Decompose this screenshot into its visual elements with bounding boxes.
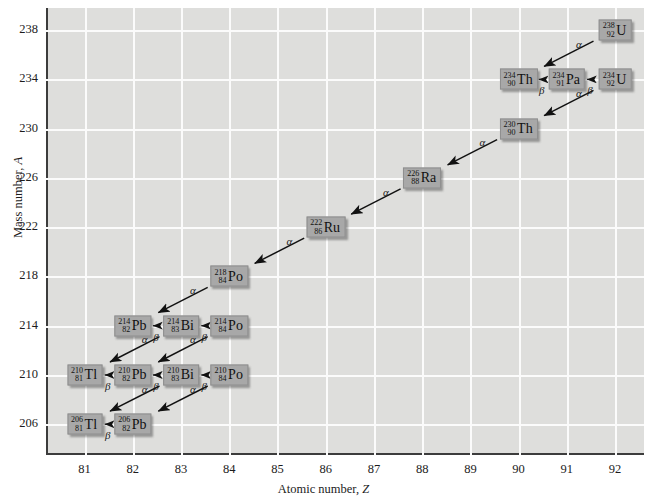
gridline-horizontal [46,276,644,278]
atomic-number: 86 [314,227,322,235]
element-symbol: Po [228,368,243,382]
element-symbol: Po [228,319,243,333]
y-tick-label: 210 [0,367,38,382]
element-symbol: U [616,72,626,86]
x-tick-label: 81 [65,462,105,477]
nuclide-box[interactable]: 20682Pb [114,414,151,435]
element-symbol: Pb [132,368,147,382]
y-axis-title-symbol: A [11,157,25,165]
atomic-number: 82 [122,375,130,383]
nuclide-numbers: 20682 [118,416,130,433]
element-symbol: Po [228,269,243,283]
nuclide-numbers: 21081 [71,367,83,384]
atomic-number: 84 [219,276,227,284]
beta-label: β [105,380,110,392]
element-symbol: Bi [181,368,194,382]
nuclide-box[interactable]: 22688Ra [403,167,441,188]
nuclide-box[interactable]: 22286Ru [306,217,345,238]
nuclide-box[interactable]: 21484Po [211,315,248,336]
nuclide-numbers: 23090 [504,120,516,137]
element-symbol: Bi [181,319,194,333]
y-tick-label: 238 [0,22,38,37]
x-axis-title: Atomic number, Z [0,482,647,497]
beta-label: β [201,380,206,392]
y-tick-label: 206 [0,416,38,431]
nuclide-numbers: 21482 [118,317,130,334]
beta-label: β [153,380,158,392]
y-tick-label: 214 [0,318,38,333]
x-tick-label: 89 [450,462,490,477]
nuclide-numbers: 23490 [504,71,516,88]
element-symbol: Th [517,72,533,86]
atomic-number: 90 [508,79,516,87]
nuclide-numbers: 23492 [603,71,615,88]
nuclide-box[interactable]: 23892U [599,20,632,41]
nuclide-numbers: 23491 [553,71,565,88]
element-symbol: Tl [85,417,97,431]
alpha-label: α [190,333,196,345]
nuclide-box[interactable]: 21084Po [211,364,248,385]
alpha-label: α [190,284,196,296]
x-axis-title-text: Atomic number, [278,482,363,496]
nuclide-numbers: 21083 [167,367,179,384]
x-tick-label: 86 [306,462,346,477]
alpha-label: α [383,186,389,198]
gridline-vertical [229,8,231,455]
atomic-number: 91 [557,79,565,87]
nuclide-numbers: 21484 [215,317,227,334]
atomic-number: 83 [171,375,179,383]
nuclide-box[interactable]: 23492U [599,69,632,90]
element-symbol: Th [517,122,533,136]
y-tick-label: 234 [0,71,38,86]
element-symbol: Ra [421,171,437,185]
element-symbol: Pb [132,319,147,333]
nuclide-numbers: 22688 [407,170,419,187]
nuclide-numbers: 21884 [215,268,227,285]
atomic-number: 92 [607,79,615,87]
element-symbol: Tl [85,368,97,382]
gridline-vertical [181,8,183,455]
nuclide-box[interactable]: 21884Po [211,266,248,287]
x-tick-label: 87 [354,462,394,477]
x-tick-label: 90 [499,462,539,477]
nuclide-box[interactable]: 20681Tl [67,414,102,435]
alpha-label: α [142,383,148,395]
y-axis-title: Mass number, A [11,128,26,268]
atomic-number: 84 [219,375,227,383]
alpha-label: α [190,383,196,395]
nuclide-numbers: 21084 [215,367,227,384]
gridline-horizontal [46,129,644,131]
nuclide-numbers: 20681 [71,416,83,433]
gridline-vertical [470,8,472,455]
element-symbol: U [616,23,626,37]
nuclide-box[interactable]: 23090Th [500,118,538,139]
nuclide-box[interactable]: 23490Th [500,69,538,90]
beta-label: β [201,331,206,343]
y-tick-label: 218 [0,268,38,283]
x-tick-label: 92 [595,462,635,477]
x-tick-label: 84 [209,462,249,477]
element-symbol: Pb [132,417,147,431]
gridline-vertical [133,8,135,455]
beta-label: β [539,84,544,96]
nuclide-numbers: 22286 [310,219,322,236]
alpha-label: α [576,38,582,50]
gridline-horizontal [46,178,644,180]
atomic-number: 82 [122,326,130,334]
nuclide-box[interactable]: 21081Tl [67,364,102,385]
x-tick-label: 83 [161,462,201,477]
atomic-number: 83 [171,326,179,334]
x-tick-label: 82 [113,462,153,477]
atomic-number: 84 [219,326,227,334]
gridline-vertical [85,8,87,455]
atomic-number: 92 [607,30,615,38]
gridline-vertical [374,8,376,455]
gridline-vertical [277,8,279,455]
x-tick-label: 91 [547,462,587,477]
atomic-number: 82 [122,424,130,432]
alpha-label: α [479,136,485,148]
atomic-number: 90 [508,129,516,137]
element-symbol: Pa [566,72,580,86]
atomic-number: 88 [411,178,419,186]
alpha-label: α [142,333,148,345]
